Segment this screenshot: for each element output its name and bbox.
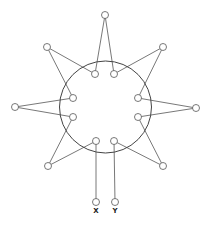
node-o-upper-right: [160, 44, 167, 51]
nodes: [12, 12, 200, 206]
edge-o-left-i7: [15, 107, 73, 117]
edge-o-lower-left-i6: [48, 141, 96, 166]
node-i4: [135, 114, 142, 121]
edge-o-right-i4: [138, 108, 196, 117]
node-i5: [111, 138, 118, 145]
edge-o-lower-right-i5: [114, 141, 163, 166]
label-y: Y: [111, 207, 118, 215]
edges: [15, 15, 196, 202]
edge-o-left-i8: [15, 98, 73, 107]
edge-o-lower-right-i4: [138, 117, 163, 166]
label-x: X: [93, 207, 99, 215]
edge-o-top-i1: [95, 15, 105, 74]
node-o-lower-left: [45, 163, 52, 170]
node-o-right: [193, 105, 200, 112]
network-diagram: X Y: [0, 0, 209, 226]
node-o-lower-right: [160, 163, 167, 170]
central-ring: [60, 61, 152, 153]
edge-o-lower-left-i7: [48, 117, 73, 166]
node-i1: [92, 71, 99, 78]
node-o-upper-left: [44, 44, 51, 51]
edge-o-right-i3: [138, 98, 196, 108]
node-i8: [70, 95, 77, 102]
node-o-top: [102, 12, 109, 19]
edge-o-upper-right-i3: [138, 47, 163, 98]
node-o-y: [112, 199, 119, 206]
edge-o-upper-right-i2: [114, 47, 163, 74]
node-o-left: [12, 104, 19, 111]
edge-o-y-i5: [114, 141, 115, 202]
node-i3: [135, 95, 142, 102]
node-o-x: [93, 199, 100, 206]
node-i6: [93, 138, 100, 145]
node-i7: [70, 114, 77, 121]
node-i2: [111, 71, 118, 78]
edge-o-top-i2: [105, 15, 114, 74]
